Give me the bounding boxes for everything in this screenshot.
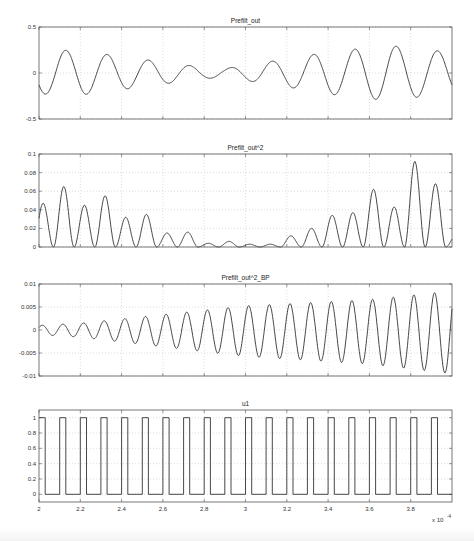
y-tick-label: -0.5 xyxy=(26,116,37,122)
x-tick-label: 2.4 xyxy=(117,506,126,512)
x-axis-exponent-label: x 10 -4 xyxy=(432,514,451,523)
x-tick-label: 3.2 xyxy=(283,506,292,512)
x-exponent-base: x 10 xyxy=(432,517,444,523)
y-tick-label: 0.4 xyxy=(28,461,37,467)
y-tick-label: 0.02 xyxy=(24,225,36,231)
x-tick-label: 2.6 xyxy=(159,506,168,512)
y-tick-label: 0.1 xyxy=(28,151,37,157)
cropped-page-text xyxy=(0,528,474,541)
plot-prefilt-out: Prefilt_out 0.50-0.5 xyxy=(26,17,452,122)
chart-figure: Prefilt_out 0.50-0.5 Prefilt_out^2 0.10.… xyxy=(0,0,474,541)
x-tick-label: 3 xyxy=(244,506,248,512)
plot-title: Prefilt_out^2_BP xyxy=(221,274,269,282)
y-tick-label: 0 xyxy=(33,70,37,76)
y-tick-label: 0.08 xyxy=(24,170,36,176)
y-tick-label: 0.6 xyxy=(28,445,37,451)
y-tick-label: 0 xyxy=(33,244,37,250)
y-tick-label: -0.005 xyxy=(19,350,37,356)
x-tick-label: 2 xyxy=(37,506,41,512)
plot-u1: u1 10.80.60.40.2022.22.42.62.833.23.43.6… xyxy=(28,400,452,512)
y-tick-label: 0 xyxy=(33,491,37,497)
plot-prefilt-out-squared: Prefilt_out^2 0.10.080.060.040.020 xyxy=(24,144,452,250)
plot-title: u1 xyxy=(242,400,250,407)
signal-trace xyxy=(39,161,452,247)
plot-title: Prefilt_out xyxy=(231,17,260,25)
x-tick-label: 2.2 xyxy=(76,506,85,512)
x-tick-label: 3.6 xyxy=(365,506,374,512)
y-tick-label: 0.5 xyxy=(28,24,37,30)
x-tick-label: 3.4 xyxy=(324,506,333,512)
y-tick-label: 0.04 xyxy=(24,207,36,213)
y-tick-label: 0.06 xyxy=(24,188,36,194)
y-tick-label: 0.8 xyxy=(28,430,37,436)
x-tick-label: 3.8 xyxy=(407,506,416,512)
plot-title: Prefilt_out^2 xyxy=(228,144,264,152)
y-tick-label: 0.2 xyxy=(28,476,37,482)
y-tick-label: 1 xyxy=(33,415,37,421)
y-tick-label: 0.01 xyxy=(24,281,36,287)
axes-frame xyxy=(39,154,452,247)
signal-trace xyxy=(39,418,452,495)
plot-prefilt-out-squared-bp: Prefilt_out^2_BP 0.010.0050-0.005-0.01 xyxy=(19,274,452,379)
x-tick-label: 2.8 xyxy=(200,506,209,512)
x-exponent-power: -4 xyxy=(447,514,451,519)
y-tick-label: 0.005 xyxy=(21,304,37,310)
y-tick-label: 0 xyxy=(33,327,37,333)
y-tick-label: -0.01 xyxy=(22,373,36,379)
